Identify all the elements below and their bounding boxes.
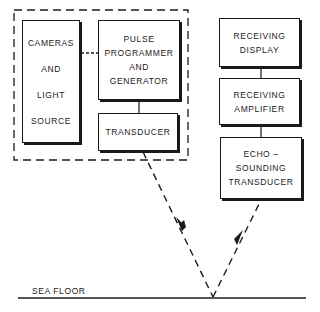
sea-floor-label: SEA FLOOR: [32, 286, 86, 296]
return-echo-ray: [213, 200, 261, 297]
block-text: TRANSDUCER: [105, 125, 170, 139]
block-text: AND: [41, 62, 61, 76]
block-text: RECEIVING: [233, 88, 285, 102]
block-text: ECHO –: [243, 147, 278, 161]
receiving-amplifier-block: RECEIVING AMPLIFIER: [219, 78, 300, 125]
pulse-programmer-generator-block: PULSE PROGRAMMER AND GENERATOR: [98, 20, 180, 100]
transducer-block: TRANSDUCER: [98, 113, 178, 151]
echo-sounding-transducer-block: ECHO – SOUNDING TRANSDUCER: [220, 137, 302, 199]
block-text: CAMERAS: [28, 36, 74, 50]
block-text: PULSE: [124, 32, 155, 46]
block-text: SOUNDING: [236, 161, 287, 175]
block-text: SOURCE: [31, 114, 71, 128]
block-text: AND: [129, 60, 149, 74]
arrow-up-icon: [234, 230, 243, 245]
receiving-display-block: RECEIVING DISPLAY: [219, 18, 300, 67]
block-text: PROGRAMMER: [105, 46, 174, 60]
cameras-light-source-block: CAMERAS AND LIGHT SOURCE: [22, 20, 80, 143]
block-text: AMPLIFIER: [234, 102, 284, 116]
block-text: RECEIVING: [233, 29, 285, 43]
block-text: TRANSDUCER: [228, 175, 293, 189]
block-text: GENERATOR: [110, 74, 168, 88]
outgoing-pulse-ray: [143, 152, 213, 297]
block-text: DISPLAY: [240, 43, 279, 57]
block-text: LIGHT: [37, 88, 65, 102]
